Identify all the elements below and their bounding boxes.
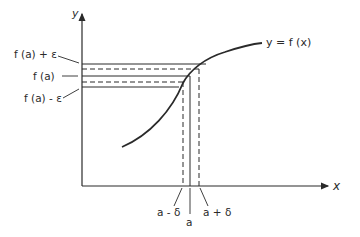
- leader-a-plus-delta: [200, 188, 208, 206]
- delta-lines: [183, 69, 199, 186]
- label-a-plus-delta: a + δ: [203, 206, 231, 218]
- label-f-a: f (a): [33, 70, 55, 82]
- label-a-minus-delta: a - δ: [157, 206, 180, 218]
- leader-upper: [58, 56, 79, 63]
- leader-lower: [63, 89, 79, 98]
- x-axis-label: x: [332, 179, 341, 193]
- function-curve: [122, 43, 262, 147]
- curve-label: y = f (x): [266, 36, 311, 49]
- leader-a-minus-delta: [174, 188, 182, 206]
- label-f-a-minus-epsilon: f (a) - ε: [24, 92, 62, 104]
- epsilon-delta-diagram: y x y = f (x) f (a) + ε f (a) f (a) - ε …: [0, 0, 360, 237]
- label-a: a: [186, 216, 192, 228]
- y-axis-label: y: [71, 7, 79, 20]
- label-f-a-plus-epsilon: f (a) + ε: [14, 48, 57, 60]
